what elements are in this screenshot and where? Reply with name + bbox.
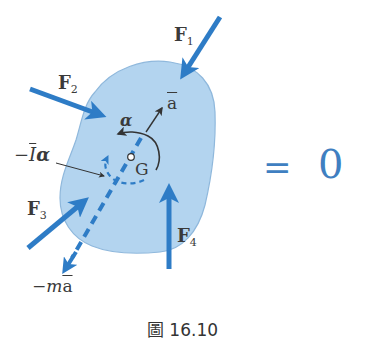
label-f3: F3 — [27, 198, 47, 222]
center-of-mass-point — [128, 154, 135, 161]
label-neg-m: −m — [32, 276, 62, 296]
label-f3-main: F — [27, 198, 40, 219]
label-f3-sub: 3 — [40, 209, 47, 222]
label-a-bar: a — [167, 93, 177, 113]
label-alpha-term: α — [36, 144, 50, 165]
label-f4: F4 — [177, 225, 197, 249]
label-g: G — [135, 159, 149, 179]
label-f4-sub: 4 — [190, 236, 197, 249]
equals-sign: = — [263, 147, 292, 187]
label-f2: F2 — [58, 72, 78, 96]
label-f2-main: F — [58, 72, 71, 93]
label-f2-sub: 2 — [71, 83, 78, 96]
label-neg-i-alpha: −Iα — [14, 144, 50, 165]
label-alpha: α — [120, 111, 132, 130]
label-f1: F1 — [174, 24, 194, 48]
label-f4-main: F — [177, 225, 190, 246]
label-f1-sub: 1 — [187, 35, 194, 48]
label-neg-m-a: −ma — [32, 276, 73, 296]
equation-rhs-zero: 0 — [318, 141, 343, 187]
label-a-term: a — [62, 276, 72, 296]
figure-caption: 圖 16.10 — [0, 316, 365, 341]
label-f1-main: F — [174, 24, 187, 45]
inertia-force-arrow-ma — [66, 252, 76, 268]
label-neg-sign: − — [14, 144, 29, 165]
